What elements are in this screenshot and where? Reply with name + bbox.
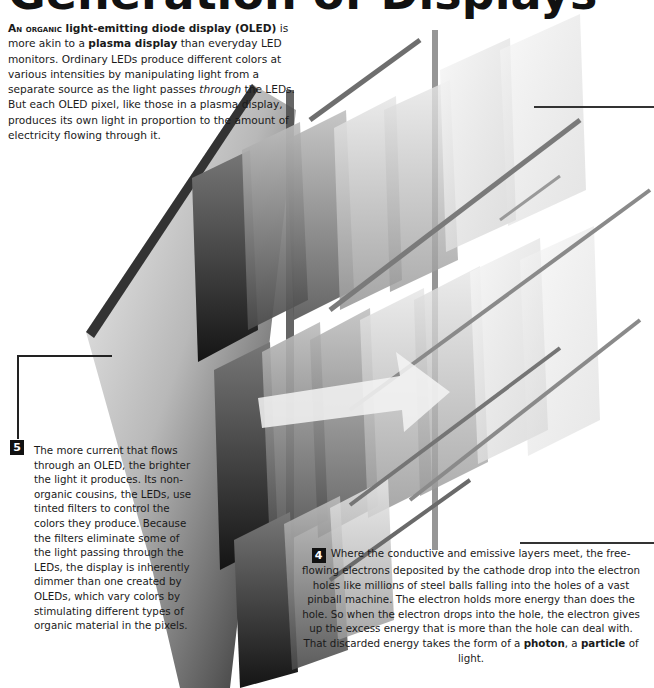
callout-5-leader-h <box>17 355 112 357</box>
callout-5-text: The more current that flows through an O… <box>34 443 196 633</box>
intro-lead-caps: An organic <box>8 22 62 34</box>
callout-4-text: 4Where the conductive and emissive layer… <box>296 546 646 665</box>
callout-4-leader <box>520 542 654 544</box>
callout-5-leader-v <box>17 355 19 439</box>
intro-paragraph: An organic light-emitting diode display … <box>8 21 308 143</box>
intro-term-plasma: plasma display <box>88 37 177 49</box>
intro-emphasis: through <box>199 83 241 95</box>
callout-4-term-photon: photon <box>524 637 565 649</box>
intro-lead: An organic light-emitting diode display … <box>8 22 276 34</box>
leader-line-right <box>534 106 654 108</box>
intro-lead-rest: light-emitting diode display (OLED) <box>62 22 277 34</box>
callout-4-body: Where the conductive and emissive layers… <box>302 547 640 649</box>
callout-4-term-particle: particle <box>581 637 625 649</box>
callout-4-badge: 4 <box>312 548 326 563</box>
page: Generation of Displays <box>0 0 654 688</box>
callout-4-joiner: , a <box>565 637 581 649</box>
callout-5-badge: 5 <box>10 440 24 455</box>
